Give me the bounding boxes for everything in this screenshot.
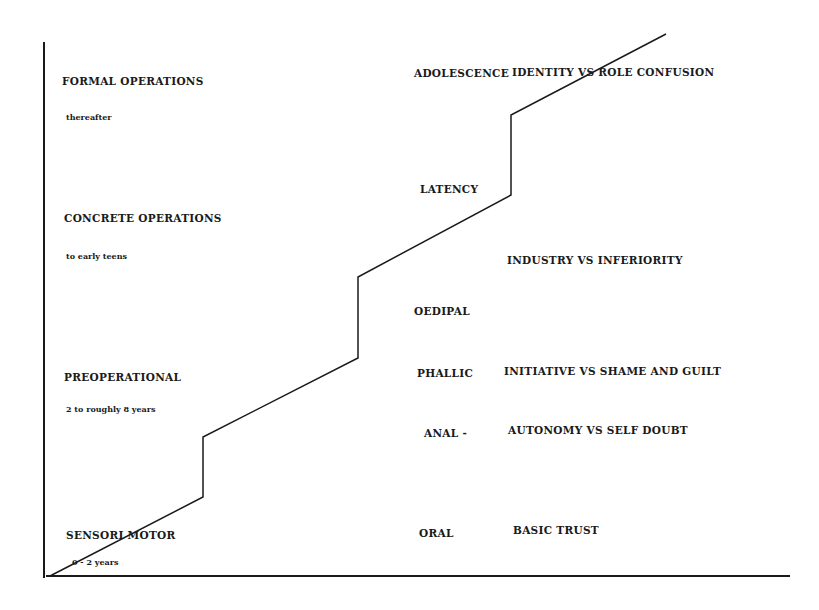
freud-stage-phallic: PHALLIC — [417, 368, 473, 379]
freud-stage-oral: ORAL — [419, 528, 454, 539]
piaget-age-concrete-operations: to early teens — [66, 252, 127, 260]
freud-stage-latency: LATENCY — [420, 184, 478, 195]
piaget-age-formal-operations: thereafter — [66, 113, 112, 121]
development-step-line — [50, 34, 666, 576]
erikson-stage-industry: INDUSTRY VS INFERIORITY — [507, 255, 683, 266]
freud-stage-anal: ANAL - — [424, 428, 467, 439]
piaget-age-sensori-motor: 0 - 2 years — [72, 558, 118, 566]
piaget-stage-formal-operations: FORMAL OPERATIONS — [62, 76, 204, 87]
developmental-stages-diagram — [0, 0, 819, 610]
erikson-stage-basic-trust: BASIC TRUST — [513, 525, 599, 536]
erikson-stage-initiative: INITIATIVE VS SHAME AND GUILT — [504, 366, 721, 377]
piaget-stage-concrete-operations: CONCRETE OPERATIONS — [64, 213, 222, 224]
piaget-age-preoperational: 2 to roughly 8 years — [66, 405, 155, 413]
freud-stage-oedipal: OEDIPAL — [414, 306, 470, 317]
piaget-stage-preoperational: PREOPERATIONAL — [64, 372, 181, 383]
freud-stage-adolescence: ADOLESCENCE — [414, 68, 509, 79]
erikson-stage-identity: IDENTITY VS ROLE CONFUSION — [512, 67, 714, 78]
erikson-stage-autonomy: AUTONOMY VS SELF DOUBT — [508, 425, 688, 436]
piaget-stage-sensori-motor: SENSORI MOTOR — [66, 530, 176, 541]
